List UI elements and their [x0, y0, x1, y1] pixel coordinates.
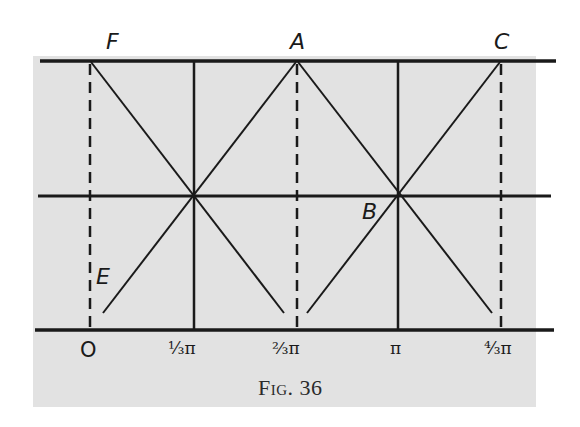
- point-label-E: E: [96, 266, 110, 288]
- tick-label-four-thirds-pi: ⁴⁄₃π: [484, 340, 512, 357]
- point-label-B: B: [362, 201, 377, 223]
- diagonal-A-to-E: [103, 62, 296, 313]
- point-label-A: A: [290, 31, 305, 53]
- point-label-C: C: [494, 31, 509, 53]
- diagonal-A-to-B: [298, 62, 492, 313]
- tick-label-two-thirds-pi: ⅔π: [272, 340, 300, 357]
- tick-label-third-pi: ⅓π: [168, 340, 196, 357]
- tick-label-pi: π: [390, 340, 401, 357]
- figure-caption: Fig. 36: [258, 375, 323, 401]
- diagram-canvas: [0, 0, 580, 427]
- diagonal-C-to-B: [307, 62, 500, 313]
- point-label-F: F: [106, 31, 119, 53]
- axis-origin-label: O: [80, 340, 97, 361]
- diagonal-F-to-B1: [91, 62, 284, 313]
